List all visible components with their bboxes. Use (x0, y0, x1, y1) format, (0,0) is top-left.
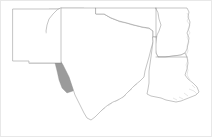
state-outlines-layer (13, 8, 199, 120)
county-map-svg (1, 1, 212, 137)
state-outline-arkansas (155, 8, 190, 57)
map-figure: South Central United States County Map O… (0, 0, 212, 137)
